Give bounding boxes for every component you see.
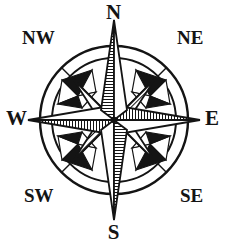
label-north: N [0,2,227,23]
label-northwest: NW [22,28,55,47]
compass-hub [111,117,117,123]
compass-rose-figure: N S W E NW NE SW SE [0,0,227,248]
label-east: E [205,108,219,129]
label-northeast: NE [177,28,203,47]
label-south: S [0,222,227,243]
label-west: W [6,108,27,129]
label-southeast: SE [180,186,203,205]
label-southwest: SW [24,186,54,205]
